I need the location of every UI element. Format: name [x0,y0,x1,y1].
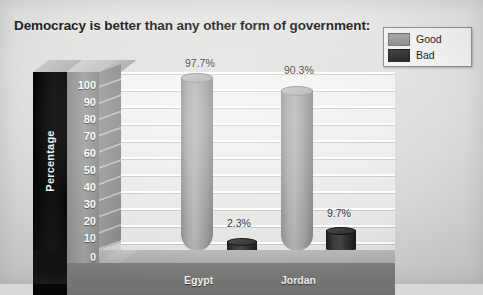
y-tick-80: 80 [84,114,96,125]
y-tick-90: 90 [84,97,96,108]
chart-legend: Good Bad [383,27,472,67]
bar-jordan-bad [326,227,356,251]
value-label-egypt-bad: 2.3% [227,217,251,229]
bar-jordan-bad-cap [326,227,356,235]
gridline-40 [121,174,395,176]
legend-label-good: Good [416,33,442,45]
legend-label-bad: Bad [416,49,435,61]
y-axis-label: Percentage [33,72,67,250]
gridline-80 [121,106,395,108]
chart-plot-3d: Percentage 100 90 80 70 60 50 40 30 20 1… [33,42,395,263]
y-axis-tick-panel: 100 90 80 70 60 50 40 30 20 10 0 [67,72,99,263]
gridline-60 [121,140,395,142]
y-tick-0: 0 [90,252,96,263]
plot-side-wall [99,64,121,250]
gridline-100 [121,72,395,74]
bar-jordan-good-cap [281,86,313,96]
y-tick-10: 10 [84,233,96,244]
bar-egypt-good-cap [181,73,213,83]
bar-egypt-good [181,73,213,251]
y-tick-40: 40 [84,182,96,193]
y-tick-60: 60 [84,148,96,159]
plot-floor-top [99,250,395,263]
value-label-egypt-good: 97.7% [185,57,215,69]
bar-egypt-good-body [181,77,213,251]
gridline-30 [121,191,395,193]
gridline-70 [121,123,395,125]
y-tick-50: 50 [84,165,96,176]
value-label-jordan-good: 90.3% [284,64,314,76]
y-tick-70: 70 [84,131,96,142]
category-label-jordan: Jordan [281,274,316,286]
value-label-jordan-bad: 9.7% [327,207,351,219]
legend-item-good: Good [388,31,467,47]
plot-back-wall [121,72,395,250]
bar-jordan-good [281,86,313,251]
gridline-90 [121,89,395,91]
axis-panel-front-base [33,250,67,295]
gridline-20 [121,208,395,210]
chart-title: Democracy is better than any other form … [14,18,370,33]
y-tick-20: 20 [84,216,96,227]
gridline-50 [121,157,395,159]
y-tick-100: 100 [78,80,96,91]
bar-jordan-good-body [281,90,313,251]
plot-floor-front [67,263,395,295]
bar-egypt-bad-cap [227,238,257,246]
y-axis-title-panel: Percentage [33,72,67,250]
category-label-egypt: Egypt [184,274,213,286]
legend-item-bad: Bad [388,47,467,63]
y-tick-30: 30 [84,199,96,210]
